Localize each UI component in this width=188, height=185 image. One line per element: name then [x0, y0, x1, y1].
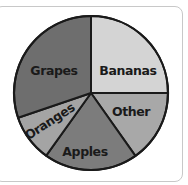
label-apples: Apples [62, 144, 107, 159]
label-bananas: Bananas [99, 63, 156, 78]
pie-chart-svg: Grapes Bananas Other Apples Oranges [0, 0, 188, 185]
label-grapes: Grapes [30, 63, 77, 78]
label-other: Other [112, 104, 151, 119]
pie-chart: Grapes Bananas Other Apples Oranges [0, 0, 188, 185]
